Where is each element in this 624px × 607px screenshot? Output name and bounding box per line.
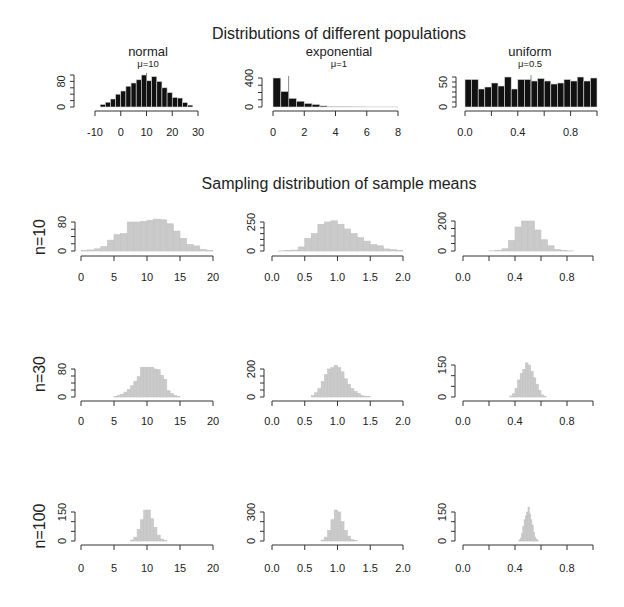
- histogram-bar: [144, 367, 147, 397]
- histogram-bar: [554, 250, 561, 252]
- x-tick-label: 1.0: [330, 271, 345, 283]
- histogram-bar: [110, 99, 115, 107]
- histogram-bar: [173, 396, 176, 397]
- histogram-bar: [170, 394, 173, 398]
- histogram-bar: [338, 512, 341, 541]
- histogram-bar: [154, 527, 157, 541]
- histogram-bar: [318, 224, 325, 251]
- histogram-bar: [177, 396, 180, 397]
- histogram-bar: [126, 86, 131, 107]
- histogram-bar: [150, 367, 153, 397]
- histogram-bar: [531, 371, 534, 397]
- histogram-bar: [305, 238, 312, 251]
- histogram-bar: [324, 222, 331, 251]
- histogram-bar: [131, 540, 134, 541]
- histogram-bar: [144, 510, 147, 541]
- histogram-bar: [535, 230, 542, 251]
- x-tick-label: -10: [87, 126, 103, 138]
- histogram-bar: [187, 244, 194, 251]
- histogram-bar: [105, 102, 110, 107]
- x-tick-label: 0.8: [559, 562, 574, 574]
- x-tick-label: 0.4: [507, 271, 522, 283]
- x-tick-label: 15: [174, 271, 186, 283]
- histogram-bar: [154, 369, 157, 397]
- histogram-bar: [311, 234, 318, 251]
- histogram-bar: [351, 389, 354, 397]
- histogram-bar: [315, 393, 318, 397]
- histogram-bar: [536, 384, 539, 397]
- x-tick-label: 5: [111, 562, 117, 574]
- x-tick-label: 30: [192, 126, 204, 138]
- histogram-bar: [164, 380, 167, 398]
- x-tick-label: 6: [364, 126, 370, 138]
- y-tick-label: 250: [245, 213, 257, 231]
- x-tick-label: 0.0: [264, 415, 279, 427]
- histogram-bar: [351, 540, 354, 541]
- x-tick-label: 0: [78, 562, 84, 574]
- histogram-bar: [505, 77, 512, 107]
- histogram-bar: [524, 80, 531, 108]
- histogram-bar: [351, 234, 358, 251]
- histogram-bar: [354, 391, 357, 397]
- y-tick-label: 0: [245, 248, 257, 254]
- histogram-bar: [150, 519, 153, 541]
- x-tick-label: 1.0: [330, 415, 345, 427]
- histogram-bar: [167, 391, 170, 397]
- x-tick-label: 1.0: [330, 562, 345, 574]
- y-tick-label: 150: [436, 356, 448, 374]
- histogram-bar: [465, 80, 472, 108]
- histogram-bar: [344, 530, 347, 541]
- histogram-bar: [357, 238, 364, 251]
- histogram-bar: [334, 366, 337, 398]
- histogram-bar: [140, 367, 143, 397]
- x-tick-label: 5: [111, 271, 117, 283]
- histogram-bar: [551, 84, 558, 107]
- x-tick-label: 0: [78, 415, 84, 427]
- x-tick-label: 10: [141, 562, 153, 574]
- x-tick-label: 15: [174, 562, 186, 574]
- panel-mean-label: μ=1: [331, 58, 347, 69]
- histogram-bar: [590, 78, 597, 107]
- histogram-bar: [364, 396, 367, 397]
- histogram-bar: [200, 250, 207, 251]
- histogram-bar: [206, 250, 213, 251]
- histogram-bar: [584, 81, 591, 107]
- histogram-bar: [121, 91, 126, 107]
- histogram-bar: [273, 78, 281, 107]
- y-tick-label: 0: [436, 394, 448, 400]
- histogram-bar: [533, 378, 536, 397]
- y-tick-label: 0: [56, 394, 68, 400]
- y-tick-label: 0: [436, 248, 448, 254]
- histogram-bar: [383, 249, 390, 251]
- histogram-bar: [318, 389, 321, 397]
- x-tick-label: 0.8: [559, 271, 574, 283]
- histogram-bar: [502, 249, 509, 251]
- histogram-bar: [548, 246, 555, 251]
- y-tick-label: 50: [437, 76, 449, 88]
- histogram-bar: [341, 372, 344, 397]
- histogram-bar: [136, 80, 141, 107]
- x-tick-label: 10: [141, 271, 153, 283]
- histogram-bar: [577, 77, 584, 107]
- histogram-bar: [127, 222, 134, 251]
- x-tick-label: 0.8: [559, 415, 574, 427]
- histogram-bar: [538, 391, 541, 397]
- histogram-bar: [320, 106, 328, 107]
- histogram-bar: [94, 249, 101, 251]
- histogram-bar: [121, 394, 124, 397]
- histogram-bar: [100, 104, 105, 107]
- histogram-bar: [338, 224, 345, 251]
- histogram-bar: [541, 240, 548, 251]
- histogram-bar: [147, 81, 152, 107]
- histogram-bar: [321, 382, 324, 397]
- histogram-bar: [180, 238, 187, 251]
- x-tick-label: 0.0: [264, 271, 279, 283]
- x-tick-label: 20: [166, 126, 178, 138]
- histogram-bar: [162, 88, 167, 107]
- histogram-figure: Distributions of different populations S…: [0, 0, 624, 607]
- histogram-bar: [334, 510, 337, 541]
- x-tick-label: 4: [332, 126, 338, 138]
- x-tick-label: 0.0: [455, 271, 470, 283]
- histogram-bar: [377, 246, 384, 251]
- histogram-bar: [140, 520, 143, 541]
